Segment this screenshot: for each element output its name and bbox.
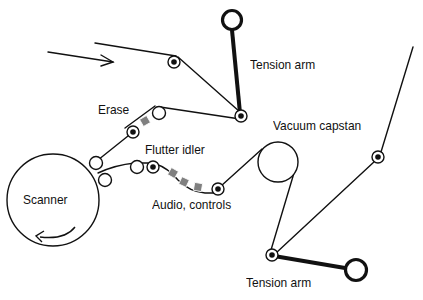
label-erase: Erase bbox=[98, 103, 129, 116]
audio-head-2 bbox=[179, 177, 190, 188]
label-flutter-idler: Flutter idler bbox=[145, 143, 205, 156]
tape-segment-to-erase bbox=[160, 107, 240, 119]
tension-arm-top-pivot bbox=[235, 110, 247, 122]
tape-segment-incoming bbox=[95, 43, 176, 56]
idler-audio bbox=[212, 183, 224, 195]
tension-arm-bottom-pivot bbox=[266, 249, 278, 261]
label-tension-arm-bottom: Tension arm bbox=[246, 276, 311, 289]
flutter-idler bbox=[147, 161, 159, 173]
idler-right bbox=[372, 151, 384, 163]
guide-roller-flutter bbox=[131, 161, 144, 174]
tape-segment-to-capstan bbox=[221, 149, 262, 186]
label-tension-arm-top: Tension arm bbox=[250, 58, 315, 71]
label-scanner: Scanner bbox=[23, 193, 68, 206]
label-vacuum-capstan: Vacuum capstan bbox=[273, 119, 361, 132]
tape-segment-erase-to-scanner bbox=[125, 106, 155, 128]
guide-roller-scanner-exit bbox=[99, 174, 112, 187]
idler-top-incoming bbox=[168, 56, 180, 68]
tape-segment-outgoing bbox=[381, 47, 413, 152]
tape-path-diagram bbox=[0, 0, 423, 300]
tape-direction-arrow-icon bbox=[48, 52, 113, 66]
tension-arm-top bbox=[223, 11, 242, 114]
label-audio-controls: Audio, controls bbox=[152, 198, 231, 211]
idler-erase bbox=[153, 107, 166, 120]
guide-roller-scanner-entry bbox=[90, 157, 103, 170]
erase-head bbox=[140, 116, 151, 127]
vacuum-capstan bbox=[258, 142, 298, 182]
idler-erase-guide bbox=[127, 126, 139, 138]
tape-segment-to-tension-arm bbox=[178, 57, 240, 112]
audio-head-1 bbox=[168, 168, 179, 179]
control-head bbox=[193, 182, 202, 191]
tape-segment-capstan-to-tension bbox=[271, 173, 294, 250]
rotation-arrow-icon bbox=[36, 227, 75, 242]
